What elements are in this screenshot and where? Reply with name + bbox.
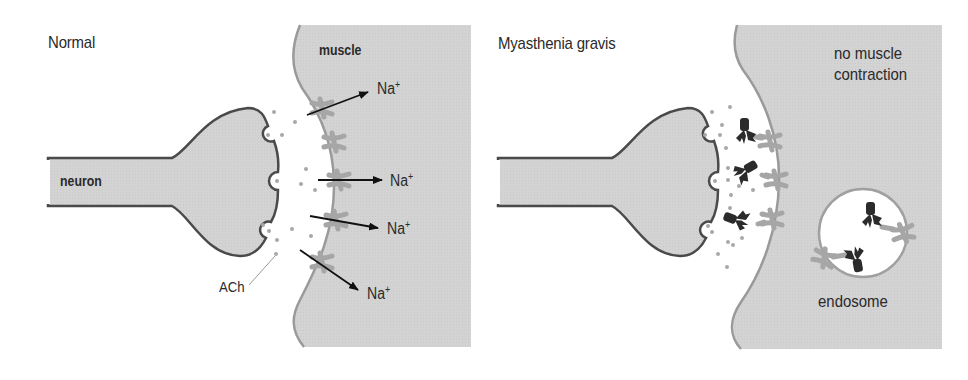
- sodium-ion-label-4: Na+: [367, 285, 390, 302]
- outcome-label-line2: contraction: [834, 66, 907, 83]
- sodium-ion-label-1: Na+: [377, 80, 400, 97]
- outcome-label-line1: no muscle: [834, 45, 902, 62]
- neuron-label: neuron: [60, 174, 102, 188]
- panel-title-normal: Normal: [48, 34, 95, 51]
- ach-pointer-line: [249, 256, 275, 285]
- sodium-ion-label-2: Na+: [390, 172, 413, 189]
- neuron-cell-mg: [498, 108, 718, 256]
- panel-title-myasthenia-gravis: Myasthenia gravis: [498, 35, 616, 52]
- muscle-label: muscle: [319, 43, 361, 57]
- endosome-label: endosome: [818, 293, 888, 310]
- myasthenia-gravis-diagram: [0, 0, 968, 380]
- ach-label: ACh: [219, 279, 245, 294]
- sodium-ion-label-3: Na+: [387, 220, 410, 237]
